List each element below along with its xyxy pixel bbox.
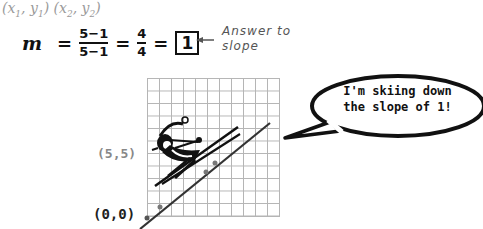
skier-icon <box>152 117 240 186</box>
point-marker <box>213 161 218 166</box>
point-label-origin: (0,0) <box>93 206 135 222</box>
point-marker <box>204 170 209 175</box>
speech-bubble-text: I'm skiing down the slope of 1! <box>310 83 483 115</box>
point-marker <box>145 216 150 221</box>
point-label-5-5: (5,5) <box>97 146 136 161</box>
point-marker <box>158 205 163 210</box>
